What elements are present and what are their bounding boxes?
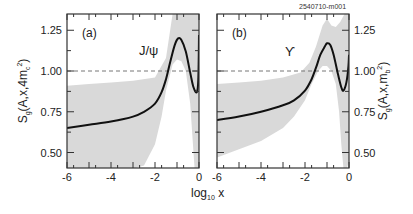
- figure-id-label: 2540710-m001: [299, 3, 346, 10]
- panel-b: -6-4-200.500.751.001.25(b)ϒSg(A,x,mb2): [212, 14, 392, 183]
- panel-label: (a): [82, 26, 97, 40]
- y-tick-label: 1.00: [354, 65, 375, 77]
- y-tick-label: 0.75: [354, 106, 375, 118]
- figure: -6-4-200.500.751.001.25(a)J/ψSg(A,x,4mc2…: [0, 0, 413, 214]
- x-tick-label: 0: [196, 171, 202, 183]
- y-axis-label: Sg(A,x,mb2): [376, 62, 392, 120]
- y-axis-label: Sg(A,x,4mc2): [16, 59, 32, 124]
- x-tick-label: -2: [150, 171, 160, 183]
- y-tick-label: 1.25: [41, 24, 62, 36]
- particle-annotation: ϒ: [285, 44, 295, 59]
- y-tick-label: 1.00: [41, 65, 62, 77]
- panel-a: -6-4-200.500.751.001.25(a)J/ψSg(A,x,4mc2…: [16, 14, 202, 183]
- particle-annotation: J/ψ: [139, 43, 158, 58]
- x-tick-label: -2: [300, 171, 310, 183]
- y-tick-label: 0.75: [41, 106, 62, 118]
- x-tick-label: -6: [212, 171, 222, 183]
- x-tick-label: -6: [62, 171, 72, 183]
- y-tick-label: 1.25: [354, 24, 375, 36]
- x-tick-label: 0: [346, 171, 352, 183]
- panel-label: (b): [232, 26, 247, 40]
- x-tick-label: -4: [106, 171, 116, 183]
- x-tick-label: -4: [256, 171, 266, 183]
- y-tick-label: 0.50: [41, 147, 62, 159]
- y-tick-label: 0.50: [354, 147, 375, 159]
- x-axis-label: log10 x: [191, 186, 224, 201]
